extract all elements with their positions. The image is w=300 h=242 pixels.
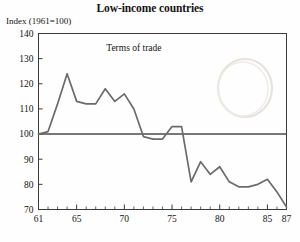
y-tick-label: 90	[24, 155, 34, 165]
x-tick-label: 61	[34, 214, 44, 224]
x-tick-label: 70	[120, 214, 130, 224]
series-annotation-label: Terms of trade	[106, 43, 161, 53]
y-tick-label: 100	[19, 129, 34, 139]
y-tick-label: 110	[20, 104, 34, 114]
x-tick-label: 80	[215, 214, 225, 224]
x-tick-label: 75	[167, 214, 177, 224]
plot-area: 708090100110120130140 61657075808587 Ter…	[0, 0, 300, 242]
chart-screenshot: Low-income countries Index (1961=100) 70…	[0, 0, 300, 242]
y-tick-label: 130	[19, 54, 34, 64]
y-tick-label: 120	[19, 79, 34, 89]
x-tick-label: 65	[72, 214, 82, 224]
data-series-terms-of-trade	[39, 74, 287, 207]
y-tick-label: 70	[24, 205, 34, 215]
x-tick-label: 87	[282, 214, 292, 224]
x-tick-label: 85	[263, 214, 273, 224]
watermark-ellipse-icon	[218, 59, 272, 117]
y-tick-label: 140	[19, 29, 34, 39]
y-axis-ticks: 708090100110120130140	[19, 29, 42, 215]
y-tick-label: 80	[24, 180, 34, 190]
